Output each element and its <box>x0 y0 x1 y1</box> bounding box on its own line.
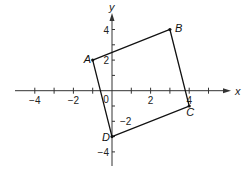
vertex-point-d <box>110 135 113 138</box>
y-tick-label: 2 <box>103 55 109 66</box>
y-tick-label: −4 <box>98 147 110 158</box>
y-tick-label: 4 <box>103 25 109 36</box>
vertex-label-b: B <box>175 22 182 34</box>
quadrilateral-abcd <box>93 30 190 137</box>
vertex-label-c: C <box>186 106 194 118</box>
vertex-point-a <box>91 59 94 62</box>
vertex-label-a: A <box>83 53 91 65</box>
y-tick-label: −2 <box>120 116 132 127</box>
x-axis-label: x <box>234 85 241 97</box>
coordinate-plane: xy−4−22442−2−40ABCD <box>0 0 250 177</box>
x-tick-label: −4 <box>29 95 41 106</box>
vertex-point-b <box>168 28 171 31</box>
y-axis-label: y <box>108 1 116 13</box>
x-tick-label: −2 <box>68 95 80 106</box>
x-axis-arrow-icon <box>223 88 231 93</box>
y-axis-arrow-icon <box>110 13 115 21</box>
x-tick-label: 2 <box>148 95 154 106</box>
vertex-label-d: D <box>102 131 110 143</box>
